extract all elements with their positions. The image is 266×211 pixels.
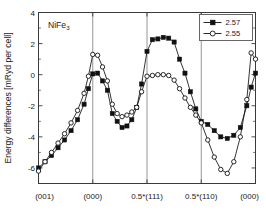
marker-square	[219, 135, 223, 139]
sample-annotation: NiFe3	[48, 20, 70, 31]
marker-circle	[249, 51, 253, 55]
marker-square	[177, 57, 181, 61]
marker-circle	[172, 78, 176, 82]
energy-differences-plot: 420-2-4-6 (001)(000)0.5*(111)0.5*(110)(0…	[0, 0, 266, 211]
marker-circle	[91, 52, 95, 56]
marker-circle	[120, 114, 124, 118]
chart-figure: 420-2-4-6 (001)(000)0.5*(111)0.5*(110)(0…	[0, 0, 266, 211]
x-tick-label-4: (000)	[240, 192, 259, 201]
marker-circle	[82, 91, 86, 95]
marker-circle	[219, 167, 223, 171]
marker-circle	[232, 160, 236, 164]
y-tick-label-2: 0	[31, 71, 36, 80]
marker-circle	[86, 74, 90, 78]
marker-circle	[183, 96, 187, 100]
marker-square	[75, 118, 79, 122]
legend-label-2.55: 2.55	[226, 29, 241, 38]
marker-circle	[69, 121, 73, 125]
marker-circle	[36, 169, 40, 173]
y-tick-label-4: -4	[28, 133, 36, 142]
marker-square	[145, 49, 149, 53]
marker-circle	[225, 171, 229, 175]
marker-square	[56, 146, 60, 150]
marker-circle	[95, 53, 99, 57]
marker-circle	[188, 105, 192, 109]
x-tick-label-3: 0.5*(110)	[185, 192, 218, 201]
marker-square	[130, 118, 134, 122]
y-tick-label-5: -6	[28, 164, 36, 173]
marker-square	[161, 35, 165, 39]
legend: 2.572.55	[200, 15, 253, 41]
marker-square	[115, 119, 119, 123]
marker-square	[86, 87, 90, 91]
marker-circle	[110, 102, 114, 106]
marker-square	[110, 111, 114, 115]
marker-circle	[125, 113, 129, 117]
marker-square	[249, 85, 253, 89]
marker-circle	[115, 111, 119, 115]
marker-circle	[206, 138, 210, 142]
marker-square	[100, 79, 104, 83]
marker-circle	[130, 110, 134, 114]
marker-square	[125, 124, 129, 128]
marker-circle	[238, 135, 242, 139]
marker-square	[150, 38, 154, 42]
marker-square	[120, 125, 124, 129]
marker-circle	[49, 150, 53, 154]
legend-marker-circle	[210, 31, 215, 36]
marker-circle	[177, 86, 181, 90]
y-tick-label-0: 4	[31, 9, 36, 18]
y-tick-label-3: -2	[28, 102, 36, 111]
marker-square	[172, 40, 176, 44]
marker-square	[91, 72, 95, 76]
marker-circle	[75, 108, 79, 112]
marker-circle	[56, 141, 60, 145]
marker-square	[206, 122, 210, 126]
annotation-subscript: 3	[66, 24, 70, 31]
marker-square	[96, 71, 100, 75]
y-tick-label-1: 2	[31, 40, 36, 49]
marker-square	[253, 71, 257, 75]
marker-square	[167, 36, 171, 40]
marker-circle	[156, 72, 160, 76]
marker-circle	[150, 73, 154, 77]
marker-circle	[199, 121, 203, 125]
marker-square	[212, 129, 216, 133]
marker-square	[82, 102, 86, 106]
marker-square	[194, 107, 198, 111]
legend-label-2.57: 2.57	[226, 18, 241, 27]
marker-square	[188, 90, 192, 94]
marker-circle	[105, 79, 109, 83]
marker-square	[183, 71, 187, 75]
y-axis-title: Energy differences [mRyd per cell]	[3, 32, 13, 163]
marker-circle	[167, 73, 171, 77]
marker-circle	[212, 155, 216, 159]
annotation-base: NiFe	[48, 20, 66, 30]
marker-square	[225, 136, 229, 140]
marker-square	[62, 138, 66, 142]
marker-circle	[134, 105, 138, 109]
x-tick-label-1: (000)	[83, 192, 102, 201]
marker-square	[156, 37, 160, 41]
marker-circle	[161, 72, 165, 76]
x-tick-label-2: 0.5*(111)	[131, 192, 163, 201]
marker-circle	[100, 65, 104, 69]
x-tick-label-0: (001)	[35, 192, 54, 201]
marker-square	[69, 129, 73, 133]
marker-circle	[194, 113, 198, 117]
marker-square	[139, 82, 143, 86]
marker-circle	[253, 57, 257, 61]
marker-circle	[139, 90, 143, 94]
annotation-label: NiFe3	[48, 20, 70, 31]
marker-circle	[62, 132, 66, 136]
marker-circle	[43, 160, 47, 164]
marker-circle	[245, 97, 249, 101]
legend-marker-square	[210, 20, 215, 25]
marker-circle	[145, 74, 149, 78]
marker-square	[232, 133, 236, 137]
